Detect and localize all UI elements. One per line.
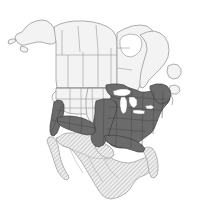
distribution-map-figure [0, 0, 207, 222]
north-america-map [0, 0, 207, 222]
region-canada-west [54, 21, 117, 88]
region-newfoundland [167, 64, 181, 79]
lake-erie [133, 110, 145, 114]
lake-michigan [120, 97, 127, 114]
